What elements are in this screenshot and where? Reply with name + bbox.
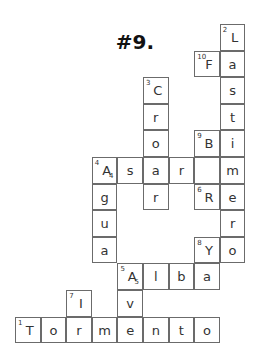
crossword-cell[interactable]: s xyxy=(117,157,143,184)
cell-letter: r xyxy=(144,190,168,205)
crossword-cell[interactable]: r xyxy=(66,317,92,344)
cell-letter: F xyxy=(199,57,219,72)
crossword-cell[interactable]: r xyxy=(143,104,169,131)
crossword-cell[interactable]: u xyxy=(92,210,118,237)
cell-letter: v xyxy=(118,296,142,311)
crossword-cell[interactable]: g xyxy=(92,184,118,211)
crossword-cell[interactable]: n xyxy=(143,317,169,344)
cell-letter: r xyxy=(67,323,91,338)
cell-letter: r xyxy=(144,110,168,125)
crossword-cell[interactable]: 6R xyxy=(194,184,220,211)
crossword-cell[interactable]: 4A4 xyxy=(92,157,118,184)
cell-letter: o xyxy=(42,323,66,338)
cell-letter: T xyxy=(20,323,40,338)
cell-letter: s xyxy=(118,163,142,178)
crossword-cell[interactable]: e xyxy=(117,317,143,344)
cell-letter: e xyxy=(118,323,142,338)
crossword-cell[interactable]: t xyxy=(220,104,246,131)
crossword-cell[interactable]: b xyxy=(169,263,195,290)
crossword-cell[interactable]: e xyxy=(220,184,246,211)
cell-subscript: 4 xyxy=(109,172,113,180)
crossword-cell[interactable]: 5A5 xyxy=(117,263,143,290)
crossword-cell[interactable]: r xyxy=(220,210,246,237)
crossword-cell[interactable]: m xyxy=(220,157,246,184)
crossword-cell[interactable]: o xyxy=(143,130,169,157)
crossword-cell[interactable]: a xyxy=(220,51,246,78)
cell-letter: a xyxy=(144,163,168,178)
cell-letter: l xyxy=(144,269,168,284)
cell-letter: n xyxy=(144,323,168,338)
cell-letter: m xyxy=(221,163,245,178)
cell-letter: B xyxy=(199,136,219,151)
cell-letter: o xyxy=(195,323,219,338)
crossword-cell[interactable]: 8Y xyxy=(194,237,220,264)
cell-letter: m xyxy=(93,323,117,338)
cell-letter: b xyxy=(170,269,194,284)
crossword-cell[interactable] xyxy=(194,157,220,184)
crossword-cell[interactable]: o xyxy=(194,317,220,344)
crossword-cell[interactable]: m xyxy=(92,317,118,344)
cell-letter: r xyxy=(170,163,194,178)
cell-letter: Y xyxy=(199,243,219,258)
crossword-cell[interactable]: s xyxy=(220,77,246,104)
cell-letter: t xyxy=(221,110,245,125)
cell-letter: A xyxy=(122,269,142,284)
cell-letter: a xyxy=(221,57,245,72)
cell-letter: s xyxy=(221,83,245,98)
crossword-cell[interactable]: r xyxy=(169,157,195,184)
crossword-cell[interactable]: 2L xyxy=(220,24,246,51)
crossword-cell[interactable]: t xyxy=(169,317,195,344)
cell-letter: i xyxy=(221,136,245,151)
cell-subscript: 5 xyxy=(135,278,139,286)
crossword-cell[interactable]: o xyxy=(41,317,67,344)
crossword-cell[interactable]: 9B xyxy=(194,130,220,157)
cell-letter: g xyxy=(93,190,117,205)
cell-letter: u xyxy=(93,216,117,231)
crossword-cell[interactable]: a xyxy=(194,263,220,290)
cell-letter: I xyxy=(71,296,91,311)
crossword-cell[interactable]: 3C xyxy=(143,77,169,104)
cell-letter: a xyxy=(93,243,117,258)
crossword-cell[interactable]: 10F xyxy=(194,51,220,78)
crossword-cell[interactable]: 1T xyxy=(15,317,41,344)
crossword-cell[interactable]: a xyxy=(143,157,169,184)
cell-letter: o xyxy=(221,243,245,258)
crossword-cell[interactable]: 7I xyxy=(66,290,92,317)
crossword-cell[interactable]: o xyxy=(220,237,246,264)
crossword-cell[interactable]: v xyxy=(117,290,143,317)
crossword-grid: 2Lastimero10F3Cro9B4A4sargr6Rua8Y5A5lba7… xyxy=(0,0,264,360)
cell-letter: R xyxy=(199,190,219,205)
cell-letter: a xyxy=(195,269,219,284)
crossword-cell[interactable]: i xyxy=(220,130,246,157)
cell-letter: A xyxy=(97,163,117,178)
crossword-cell[interactable]: r xyxy=(143,184,169,211)
cell-letter: r xyxy=(221,216,245,231)
crossword-cell[interactable]: a xyxy=(92,237,118,264)
cell-letter: L xyxy=(225,30,245,45)
crossword-cell[interactable]: l xyxy=(143,263,169,290)
cell-letter: C xyxy=(148,83,168,98)
cell-letter: t xyxy=(170,323,194,338)
cell-letter: o xyxy=(144,136,168,151)
cell-letter: e xyxy=(221,190,245,205)
